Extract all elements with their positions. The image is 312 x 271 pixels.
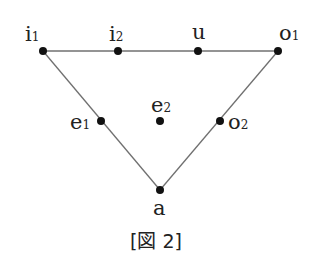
label-e1: e1 [70, 110, 90, 134]
point-o1 [274, 47, 282, 55]
label-u: u [192, 20, 206, 44]
point-i2 [114, 47, 122, 55]
label-a: a [153, 196, 166, 220]
point-a [156, 186, 164, 194]
point-e1 [97, 117, 105, 125]
point-i1 [39, 47, 47, 55]
label-o1: o1 [279, 21, 299, 45]
label-e2: e2 [151, 93, 171, 117]
point-e2 [156, 117, 164, 125]
figure-caption: [図 2] [0, 226, 312, 253]
label-i1: i1 [25, 22, 39, 46]
label-i2: i2 [109, 22, 123, 46]
point-o2 [216, 117, 224, 125]
label-o2: o2 [228, 110, 248, 134]
point-u [194, 47, 202, 55]
